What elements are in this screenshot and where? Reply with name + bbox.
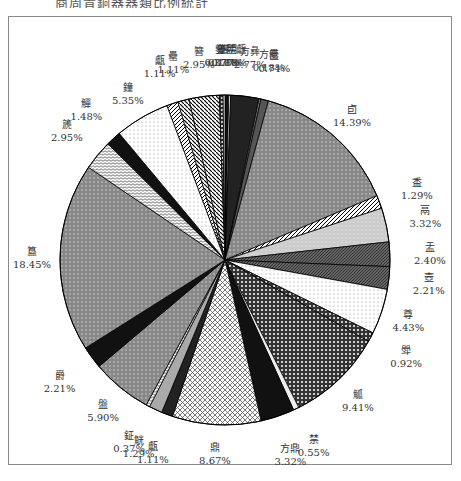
slice-percentage: 2.95% (51, 132, 83, 143)
slice-label: 觚 (353, 388, 363, 400)
slice-percentage: 1.29% (401, 190, 433, 201)
slice-label: 禁 (309, 434, 319, 445)
slice-percentage: 5.35% (112, 95, 144, 106)
slice-percentage: 0.18% (208, 57, 240, 68)
slice-label: 卣 (347, 103, 357, 115)
slice-label: 尊 (403, 308, 413, 320)
slice-label: 鬲 (420, 205, 430, 216)
slice-percentage: 2.21% (44, 383, 76, 394)
slice-percentage: 5.90% (87, 412, 119, 423)
slice-label: 鉦 (124, 430, 134, 441)
slice-percentage: 0.92% (390, 358, 422, 369)
slice-label: 簋 (27, 245, 37, 257)
slice-percentage: 9.41% (342, 402, 374, 413)
slice-label: 爵 (55, 369, 65, 381)
slice-label: 鼎 (210, 442, 220, 453)
slice-label: 方彝 (240, 45, 260, 57)
slice-percentage: 0.74% (258, 63, 290, 74)
slice-percentage: 3.32% (409, 218, 441, 229)
slice-label: 壺 (424, 272, 434, 283)
slice-label: 盤 (98, 398, 108, 410)
slice-percentage: 2.21% (413, 285, 445, 296)
slice-label: 罍 (168, 51, 178, 62)
slice-label: 觶 (81, 97, 91, 109)
slice-percentage: 2.40% (414, 255, 446, 266)
slice-label: 鐘 (123, 81, 133, 93)
slice-label: 簪 (194, 45, 204, 57)
slice-percentage: 8.67% (199, 455, 231, 466)
slice-percentage: 0.37% (113, 443, 145, 454)
slice-percentage: 14.39% (333, 117, 371, 128)
slice-label: 方鼎 (280, 442, 300, 454)
slice-label: 盉 (412, 177, 422, 188)
pie-chart: 不明0.37%分體甗0.18%方彝2.77%方罍0.18%匜0.74%卣14.3… (0, 0, 461, 481)
slice-label: 匜 (269, 50, 279, 61)
slice-percentage: 3.32% (275, 456, 307, 467)
slice-percentage: 4.43% (392, 322, 424, 333)
slice-percentage: 1.48% (71, 111, 103, 122)
slice-label: 罐 (219, 43, 229, 55)
slice-label: 斝 (401, 345, 411, 356)
slice-label: 盂 (425, 242, 435, 253)
slice-percentage: 18.45% (13, 259, 51, 270)
